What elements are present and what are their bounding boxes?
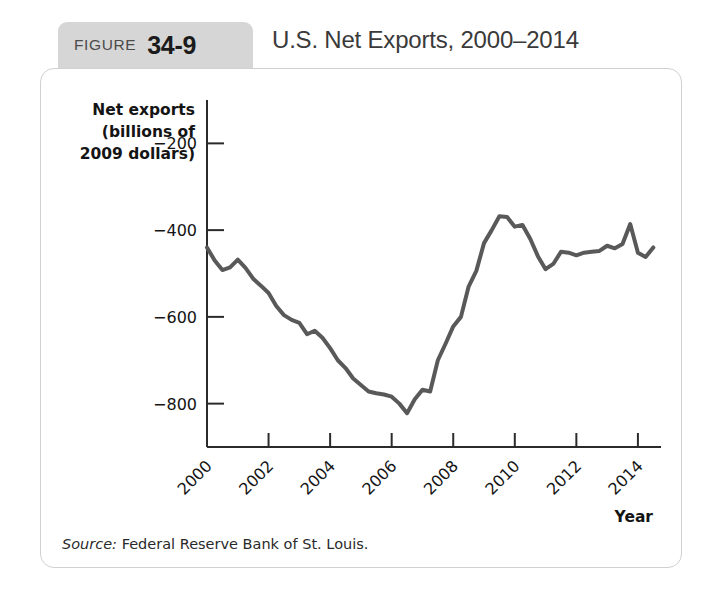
figure-root: FIGURE 34-9 U.S. Net Exports, 2000–2014 … xyxy=(0,0,713,599)
figure-number: 34-9 xyxy=(147,31,196,60)
figure-tab: FIGURE 34-9 xyxy=(58,22,253,68)
figure-title: U.S. Net Exports, 2000–2014 xyxy=(272,26,579,54)
figure-tab-word: FIGURE xyxy=(74,36,136,54)
source-note: Source: Federal Reserve Bank of St. Loui… xyxy=(62,536,368,552)
source-text: Federal Reserve Bank of St. Louis. xyxy=(122,536,369,552)
source-label: Source: xyxy=(62,536,117,552)
figure-panel xyxy=(40,68,682,568)
